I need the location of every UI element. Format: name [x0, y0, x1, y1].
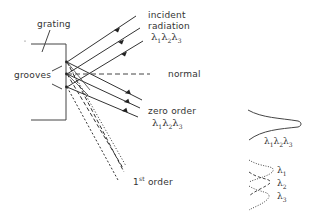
first-order-rays [67, 62, 126, 180]
incident-label-line1: incident [148, 10, 186, 20]
groove-pointers [52, 66, 62, 89]
inset-lambda3: λ3 [277, 191, 287, 205]
inset-lambda2: λ2 [277, 178, 287, 192]
zero-order-arrows [122, 89, 131, 112]
grating-outline [31, 44, 66, 120]
normal-label: normal [168, 69, 201, 79]
inset-combined-wavelengths: λ1λ2λ3 [264, 136, 293, 150]
grating-label: grating [37, 19, 71, 29]
grooves-label: grooves [14, 70, 51, 80]
zero-order-rays [67, 62, 142, 117]
zero-order-label: zero order [148, 106, 196, 116]
incident-label-line2: radiation [148, 21, 190, 31]
first-order-label: 1st order [133, 174, 173, 187]
incident-wavelengths: λ1λ2λ3 [151, 31, 182, 46]
peak-lambda1 [249, 160, 273, 182]
grating-pointer [42, 30, 50, 52]
inset-lambda1: λ1 [277, 165, 287, 179]
zero-order-wavelengths: λ1λ2λ3 [152, 117, 183, 132]
